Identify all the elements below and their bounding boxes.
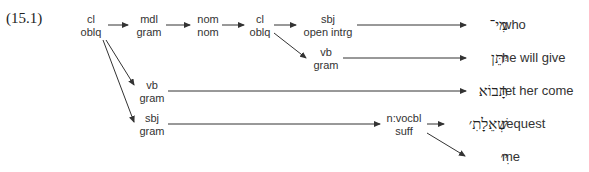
node-label: oblq bbox=[245, 26, 275, 39]
node-cl-oblq-root: cl oblq bbox=[76, 13, 106, 39]
node-sbj-gram: sbj gram bbox=[134, 112, 170, 138]
node-label: sbj bbox=[134, 112, 170, 125]
node-mdl-gram: mdl gram bbox=[132, 13, 166, 39]
node-cl-oblq: cl oblq bbox=[245, 13, 275, 39]
node-sbj-open-intrg: sbj open intrg bbox=[297, 13, 359, 39]
node-label: vb bbox=[308, 46, 344, 59]
node-label: sbj bbox=[297, 13, 359, 26]
node-label: n:vocbl bbox=[381, 112, 427, 125]
node-label: mdl bbox=[132, 13, 166, 26]
gloss-5: me bbox=[502, 149, 520, 164]
gloss-4: request bbox=[502, 116, 545, 131]
node-label: open intrg bbox=[297, 26, 359, 39]
hebrew-word-4: שְׁאֵלָתִ׳ bbox=[446, 115, 508, 133]
node-label: nom bbox=[193, 13, 223, 26]
node-label: cl bbox=[76, 13, 106, 26]
node-vb-gram-2: vb gram bbox=[134, 79, 170, 105]
hebrew-word-3: תָּבוֹא bbox=[458, 82, 508, 100]
node-label: gram bbox=[134, 92, 170, 105]
node-label: cl bbox=[245, 13, 275, 26]
node-label: oblq bbox=[76, 26, 106, 39]
node-label: suff bbox=[381, 125, 427, 138]
node-label: vb bbox=[134, 79, 170, 92]
gloss-3: let her come bbox=[502, 83, 574, 98]
node-vb-gram-1: vb gram bbox=[308, 46, 344, 72]
node-label: nom bbox=[193, 26, 223, 39]
node-label: gram bbox=[134, 125, 170, 138]
node-n-vocbl-suff: n:vocbl suff bbox=[381, 112, 427, 138]
gloss-1: who bbox=[502, 17, 526, 32]
node-nom-nom: nom nom bbox=[193, 13, 223, 39]
node-label: gram bbox=[308, 59, 344, 72]
gloss-2: he will give bbox=[502, 50, 566, 65]
node-label: gram bbox=[132, 26, 166, 39]
